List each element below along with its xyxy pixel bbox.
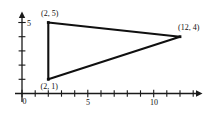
vertex-marker-top — [47, 21, 50, 24]
x-tick-label-10: 10 — [150, 98, 158, 107]
x-axis-group: 0 5 10 — [15, 90, 203, 107]
vertex-marker-bottom — [47, 78, 50, 81]
y-tick-label-5: 5 — [27, 19, 31, 28]
triangle-shape — [47, 21, 182, 81]
triangle-outline — [48, 23, 180, 80]
y-axis-group: 5 — [18, 12, 31, 103]
chart-canvas: 0 5 10 5 (2, 5) (12, 4) (2, 1) — [0, 0, 207, 114]
vertex-marker-right — [179, 35, 182, 38]
x-tick-label-5: 5 — [86, 98, 90, 107]
vertex-label-bottom: (2, 1) — [41, 82, 59, 91]
coordinate-plane-figure: 0 5 10 5 (2, 5) (12, 4) (2, 1) — [0, 0, 207, 114]
vertex-label-top: (2, 5) — [41, 9, 59, 18]
x-tick-label-0: 0 — [23, 97, 27, 106]
y-axis-arrow-icon — [19, 12, 25, 19]
vertex-label-right: (12, 4) — [178, 23, 200, 32]
x-axis-arrow-icon — [196, 90, 203, 96]
